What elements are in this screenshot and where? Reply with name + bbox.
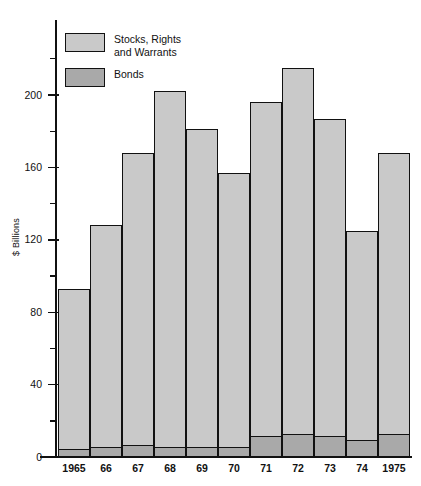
bar-segment-stocks: [347, 232, 377, 442]
bar-segment-stocks: [315, 120, 345, 439]
bar-70: [218, 173, 250, 457]
x-tick-label-1975: 1975: [372, 462, 416, 474]
bar-segment-bonds: [347, 440, 377, 456]
bar-segment-bonds: [123, 445, 153, 456]
bar-67: [122, 153, 154, 457]
bar-segment-stocks: [59, 290, 89, 451]
bar-segment-bonds: [283, 434, 313, 456]
bar-74: [346, 231, 378, 457]
bar-72: [282, 68, 314, 457]
bar-73: [314, 119, 346, 458]
bar-segment-bonds: [91, 447, 121, 456]
bar-segment-bonds: [155, 447, 185, 456]
bar-71: [250, 102, 282, 457]
bar-segment-stocks: [219, 174, 249, 449]
bar-segment-stocks: [187, 130, 217, 449]
legend-label-bonds: Bonds: [114, 68, 144, 81]
bar-segment-bonds: [251, 436, 281, 456]
bar-segment-bonds: [187, 447, 217, 456]
bar-1965: [58, 289, 90, 457]
stacked-bar-chart: $ Billions 04080120160200 19656667686970…: [0, 0, 421, 486]
bar-68: [154, 91, 186, 457]
bar-69: [186, 129, 218, 457]
bar-66: [90, 225, 122, 457]
bar-segment-stocks: [91, 226, 121, 449]
bar-segment-stocks: [283, 69, 313, 437]
bar-segment-stocks: [251, 103, 281, 438]
bar-1975: [378, 153, 410, 457]
bar-segment-bonds: [59, 449, 89, 456]
bar-segment-bonds: [219, 447, 249, 456]
bars-container: [0, 0, 421, 486]
bar-segment-bonds: [379, 434, 409, 456]
bar-segment-bonds: [315, 436, 345, 456]
bar-segment-stocks: [155, 92, 185, 449]
bar-segment-stocks: [123, 154, 153, 447]
legend-label-stocks: Stocks, Rights and Warrants: [114, 33, 181, 58]
stocks-swatch: [65, 33, 105, 52]
legend-item-stocks: Stocks, Rights and Warrants: [65, 33, 181, 58]
legend-item-bonds: Bonds: [65, 68, 181, 87]
bonds-swatch: [65, 68, 105, 87]
bar-segment-stocks: [379, 154, 409, 437]
chart-legend: Stocks, Rights and Warrants Bonds: [65, 33, 181, 97]
